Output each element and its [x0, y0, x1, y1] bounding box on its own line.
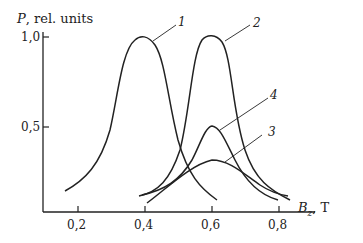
curve-3 [147, 160, 288, 203]
leader-1 [153, 25, 176, 41]
y-axis-label-units: , rel. units [26, 11, 93, 26]
y-tick-label-1: 1,0 [21, 31, 40, 43]
leader-3 [225, 135, 262, 162]
leader-2 [225, 25, 250, 41]
x-tick-label-04: 0,4 [134, 219, 153, 231]
x-axis-label-units: , T [312, 200, 329, 215]
curve-4 [142, 126, 278, 200]
curve-label-3: 3 [268, 126, 276, 138]
x-tick-label-02: 0,2 [67, 219, 86, 231]
x-tick-label-08: 0,8 [268, 219, 287, 231]
curve-1 [65, 37, 217, 200]
x-axis-label-symbol: B [298, 200, 308, 215]
x-axis-label: Bz, T [298, 201, 329, 218]
curve-label-4: 4 [270, 89, 278, 101]
leader-4 [220, 98, 268, 130]
y-tick-label-05: 0,5 [21, 121, 40, 133]
curve-label-1: 1 [178, 16, 186, 28]
curve-label-2: 2 [253, 17, 261, 29]
y-axis-label: P, rel. units [17, 12, 93, 25]
x-tick-label-06: 0,6 [201, 219, 220, 231]
y-axis-label-symbol: P [17, 11, 26, 26]
